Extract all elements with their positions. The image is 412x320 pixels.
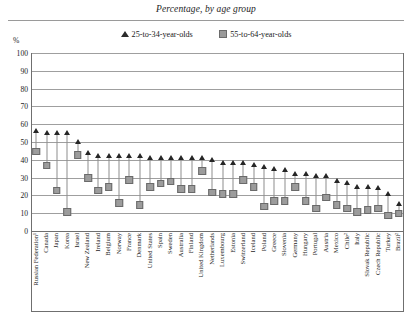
triangle-marker[interactable] <box>261 164 267 169</box>
square-marker[interactable] <box>32 148 40 156</box>
square-marker[interactable] <box>74 151 82 159</box>
square-marker[interactable] <box>188 185 196 193</box>
square-marker[interactable] <box>229 190 237 198</box>
data-point-group[interactable] <box>72 53 82 231</box>
square-marker[interactable] <box>95 187 103 195</box>
square-marker[interactable] <box>312 205 320 213</box>
square-marker[interactable] <box>240 176 248 184</box>
triangle-marker[interactable] <box>178 155 184 160</box>
triangle-marker[interactable] <box>44 130 50 135</box>
data-point-group[interactable] <box>352 53 362 231</box>
data-point-group[interactable] <box>342 53 352 231</box>
square-marker[interactable] <box>291 183 299 191</box>
square-marker[interactable] <box>271 197 279 205</box>
data-point-group[interactable] <box>228 53 238 231</box>
data-point-group[interactable] <box>31 53 41 231</box>
square-marker[interactable] <box>395 210 403 218</box>
triangle-marker[interactable] <box>292 171 298 176</box>
square-marker[interactable] <box>260 203 268 211</box>
data-point-group[interactable] <box>176 53 186 231</box>
data-point-group[interactable] <box>197 53 207 231</box>
data-point-group[interactable] <box>238 53 248 231</box>
triangle-marker[interactable] <box>334 178 340 183</box>
triangle-marker[interactable] <box>396 201 402 206</box>
triangle-marker[interactable] <box>199 155 205 160</box>
triangle-marker[interactable] <box>54 130 60 135</box>
data-point-group[interactable] <box>290 53 300 231</box>
square-marker[interactable] <box>302 197 310 205</box>
data-point-group[interactable] <box>311 53 321 231</box>
triangle-marker[interactable] <box>158 155 164 160</box>
square-marker[interactable] <box>146 183 154 191</box>
triangle-marker[interactable] <box>85 150 91 155</box>
triangle-marker[interactable] <box>354 184 360 189</box>
square-marker[interactable] <box>385 212 393 220</box>
square-marker[interactable] <box>281 197 289 205</box>
square-marker[interactable] <box>209 189 217 197</box>
data-point-group[interactable] <box>41 53 51 231</box>
triangle-marker[interactable] <box>303 171 309 176</box>
data-point-group[interactable] <box>280 53 290 231</box>
triangle-marker[interactable] <box>33 128 39 133</box>
triangle-marker[interactable] <box>323 173 329 178</box>
square-marker[interactable] <box>167 178 175 186</box>
triangle-marker[interactable] <box>168 155 174 160</box>
data-point-group[interactable] <box>269 53 279 231</box>
square-marker[interactable] <box>126 176 134 184</box>
square-marker[interactable] <box>84 174 92 182</box>
triangle-marker[interactable] <box>385 191 391 196</box>
data-point-group[interactable] <box>331 53 341 231</box>
data-point-group[interactable] <box>218 53 228 231</box>
triangle-marker[interactable] <box>240 160 246 165</box>
data-point-group[interactable] <box>207 53 217 231</box>
triangle-marker[interactable] <box>147 155 153 160</box>
data-point-group[interactable] <box>300 53 310 231</box>
square-marker[interactable] <box>157 180 165 188</box>
triangle-marker[interactable] <box>116 153 122 158</box>
square-marker[interactable] <box>250 183 258 191</box>
square-marker[interactable] <box>43 162 51 170</box>
triangle-marker[interactable] <box>126 153 132 158</box>
triangle-marker[interactable] <box>189 155 195 160</box>
triangle-marker[interactable] <box>344 180 350 185</box>
triangle-marker[interactable] <box>365 184 371 189</box>
triangle-marker[interactable] <box>251 162 257 167</box>
data-point-group[interactable] <box>83 53 93 231</box>
square-marker[interactable] <box>219 190 227 198</box>
data-point-group[interactable] <box>363 53 373 231</box>
triangle-marker[interactable] <box>64 130 70 135</box>
data-point-group[interactable] <box>166 53 176 231</box>
square-marker[interactable] <box>53 187 61 195</box>
triangle-marker[interactable] <box>106 153 112 158</box>
data-point-group[interactable] <box>104 53 114 231</box>
triangle-marker[interactable] <box>75 139 81 144</box>
data-point-group[interactable] <box>93 53 103 231</box>
data-point-group[interactable] <box>135 53 145 231</box>
square-marker[interactable] <box>374 205 382 213</box>
triangle-marker[interactable] <box>209 157 215 162</box>
square-marker[interactable] <box>136 201 144 209</box>
data-point-group[interactable] <box>155 53 165 231</box>
square-marker[interactable] <box>354 208 362 216</box>
data-point-group[interactable] <box>259 53 269 231</box>
square-marker[interactable] <box>343 205 351 213</box>
data-point-group[interactable] <box>249 53 259 231</box>
data-point-group[interactable] <box>186 53 196 231</box>
data-point-group[interactable] <box>321 53 331 231</box>
triangle-marker[interactable] <box>271 166 277 171</box>
square-marker[interactable] <box>105 183 113 191</box>
data-point-group[interactable] <box>373 53 383 231</box>
square-marker[interactable] <box>177 185 185 193</box>
triangle-marker[interactable] <box>220 160 226 165</box>
square-marker[interactable] <box>63 208 71 216</box>
triangle-marker[interactable] <box>282 167 288 172</box>
triangle-marker[interactable] <box>137 153 143 158</box>
triangle-marker[interactable] <box>95 153 101 158</box>
square-marker[interactable] <box>115 199 123 207</box>
square-marker[interactable] <box>364 206 372 214</box>
data-point-group[interactable] <box>114 53 124 231</box>
triangle-marker[interactable] <box>230 160 236 165</box>
data-point-group[interactable] <box>52 53 62 231</box>
triangle-marker[interactable] <box>375 185 381 190</box>
square-marker[interactable] <box>333 201 341 209</box>
